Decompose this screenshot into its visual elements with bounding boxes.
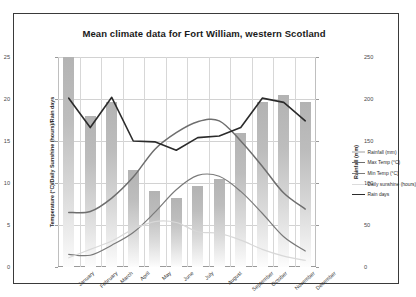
chart-legend: Rainfall (mm)Max Temp (°C)Min Temp (°C)D… — [352, 147, 412, 200]
y-axis-right-tick-label: 150 — [364, 138, 384, 144]
y-axis-left-tick-label: 0 — [0, 264, 10, 270]
x-axis-tick-label: March — [119, 270, 134, 284]
x-axis-tick-label: December — [315, 270, 338, 291]
y-axis-right-tick-label: 50 — [364, 222, 384, 228]
legend-item: Max Temp (°C) — [352, 158, 412, 169]
y-axis-left-tick-label: 15 — [0, 138, 10, 144]
x-axis-tick-label: November — [293, 270, 316, 291]
legend-swatch — [352, 194, 365, 195]
y-axis-right-tickmark — [316, 267, 319, 268]
legend-swatch — [352, 184, 365, 185]
x-axis-tick-label: April — [139, 270, 151, 282]
legend-label: Min Temp (°C) — [368, 171, 399, 176]
x-axis-tick-label: February — [99, 270, 119, 289]
legend-swatch — [352, 151, 365, 153]
line-series — [69, 119, 306, 213]
legend-item: Rainfall (mm) — [352, 147, 412, 158]
legend-item: Rain days — [352, 189, 412, 200]
y-axis-right-tick-label: 0 — [364, 264, 384, 270]
y-axis-right-tickmark — [316, 225, 319, 226]
x-axis-tick-label: June — [182, 270, 195, 282]
y-axis-right-tickmark — [316, 99, 319, 100]
legend-item: Min Temp (°C) — [352, 168, 412, 179]
x-axis-tick-label: January — [77, 270, 95, 287]
line-series — [69, 97, 306, 150]
y-axis-right-tickmark — [316, 183, 319, 184]
y-axis-left-title: Temperature (°C)/Daily Sunshine (hours)/… — [49, 97, 55, 228]
x-axis-tick-label: July — [203, 270, 214, 281]
y-axis-right-tickmark — [316, 57, 319, 58]
chart-title: Mean climate data for Fort William, west… — [54, 28, 354, 39]
legend-swatch — [352, 162, 365, 163]
line-series-layer — [58, 57, 316, 267]
x-axis-tick-label: May — [160, 270, 172, 281]
y-axis-right-tick-label: 250 — [364, 54, 384, 60]
legend-label: Rain days — [368, 192, 390, 197]
legend-item: Daily sunshine (hours) — [352, 179, 412, 190]
y-axis-left-tick-label: 10 — [0, 180, 10, 186]
x-axis-tick-label: August — [227, 270, 243, 286]
y-axis-left-tick-label: 5 — [0, 222, 10, 228]
plot-area: 0510152025 050100150200250 Temperature (… — [58, 57, 316, 267]
legend-label: Daily sunshine (hours) — [368, 182, 416, 187]
y-axis-left-tickmark — [55, 267, 58, 268]
legend-label: Max Temp (°C) — [368, 160, 401, 165]
y-axis-right-tick-label: 200 — [364, 96, 384, 102]
legend-label: Rainfall (mm) — [368, 150, 397, 155]
legend-swatch — [352, 173, 365, 174]
y-axis-left-tick-label: 20 — [0, 96, 10, 102]
y-axis-right-tickmark — [316, 141, 319, 142]
line-series — [69, 221, 306, 260]
chart-frame: Mean climate data for Fort William, west… — [13, 13, 399, 284]
y-axis-left-tick-label: 25 — [0, 54, 10, 60]
